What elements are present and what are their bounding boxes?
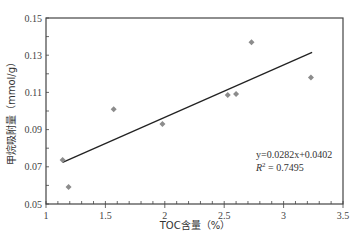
regression-line	[63, 52, 312, 162]
r-squared-label: R2 = 0.7495	[255, 161, 304, 173]
y-tick-label: 0.05	[25, 199, 43, 210]
data-point-diamond-icon	[159, 121, 165, 127]
y-tick-label: 0.09	[25, 124, 43, 135]
data-point-diamond-icon	[111, 106, 117, 112]
data-point-diamond-icon	[225, 92, 231, 98]
regression-equation: y=0.0282x+0.0402	[256, 149, 332, 160]
y-tick-label: 0.13	[25, 50, 43, 61]
data-point-diamond-icon	[308, 75, 314, 81]
y-tick-labels: 0.050.070.090.110.130.15	[25, 13, 43, 210]
x-tick-label: 3.5	[337, 210, 350, 221]
x-tick-label: 1.5	[99, 210, 112, 221]
y-tick-label: 0.15	[25, 13, 43, 24]
x-tick-label: 1	[44, 210, 49, 221]
y-tick-label: 0.11	[25, 87, 42, 98]
x-axis-title: TOC含量（%）	[159, 219, 230, 231]
data-point-diamond-icon	[249, 39, 255, 45]
data-point-diamond-icon	[233, 91, 239, 97]
y-tick-label: 0.07	[25, 161, 43, 172]
data-point-diamond-icon	[66, 184, 72, 190]
x-tick-label: 3	[281, 210, 286, 221]
axis-ticks	[46, 18, 343, 208]
plot-frame	[46, 18, 343, 204]
y-axis-title: 甲烷吸附量（mmol/g）	[5, 57, 17, 165]
scatter-chart: 11.522.533.5 0.050.070.090.110.130.15 TO…	[0, 0, 354, 236]
